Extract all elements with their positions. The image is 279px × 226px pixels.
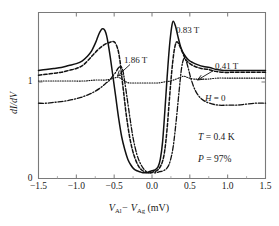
series-label-041T: 0.41 T bbox=[215, 62, 238, 71]
y-axis-label-text: dI/dV bbox=[8, 92, 19, 114]
x-tick-label: −1.5 bbox=[25, 182, 53, 192]
x-tick-label: 1.5 bbox=[252, 182, 279, 192]
series-label-186T: 1.86 T bbox=[124, 56, 147, 65]
x-tick-label: −1.0 bbox=[62, 182, 90, 192]
x-axis-label-sub-al: Al bbox=[115, 207, 122, 214]
plot-canvas bbox=[0, 0, 278, 226]
axis-frame bbox=[39, 13, 266, 179]
x-axis-label-sub-ag: Ag bbox=[137, 207, 145, 214]
temperature-value: = 0.4 K bbox=[203, 132, 234, 142]
x-axis-label: VAl− VAg (mV) bbox=[0, 203, 278, 213]
x-tick-label: 1.0 bbox=[214, 182, 242, 192]
series-label-083T: 0.83 T bbox=[176, 26, 199, 35]
figure-container: dI/dV VAl− VAg (mV) 0.83 T 0.41 T 1.86 T… bbox=[0, 0, 278, 226]
condition-polarization: P = 97% bbox=[198, 155, 231, 165]
curve-1-86-t bbox=[39, 76, 266, 83]
series-label-h-value: = 0 bbox=[212, 93, 226, 103]
data-curves bbox=[39, 21, 266, 173]
x-tick-label: 0.5 bbox=[176, 182, 204, 192]
arrow-041-head bbox=[198, 75, 204, 80]
x-tick-label: −0.5 bbox=[100, 182, 128, 192]
y-tick-label: 0 bbox=[17, 174, 33, 184]
x-axis-label-unit: (mV) bbox=[145, 202, 169, 213]
x-axis-label-v2: − V bbox=[122, 202, 137, 213]
x-tick-label: 0.0 bbox=[138, 182, 166, 192]
condition-temperature: T = 0.4 K bbox=[198, 133, 235, 143]
curve-0-41-t bbox=[39, 21, 266, 173]
axis-ticks bbox=[39, 13, 266, 179]
curve-h-0 bbox=[39, 58, 266, 173]
polarization-value: = 97% bbox=[204, 154, 232, 164]
plot-axes bbox=[39, 13, 266, 179]
y-tick-label: 1 bbox=[17, 77, 33, 87]
series-label-h-zero: H = 0 bbox=[205, 94, 226, 103]
annotation-arrows bbox=[118, 65, 214, 81]
